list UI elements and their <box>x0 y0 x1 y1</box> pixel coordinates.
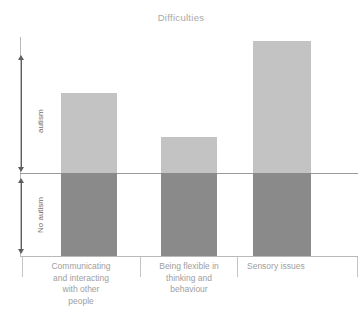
category-label-line: and interacting <box>28 273 134 285</box>
category-label-line: people <box>28 296 134 308</box>
band-label-autism: autism <box>36 109 45 133</box>
bar-sensory-issues <box>253 41 311 256</box>
bar-segment-autism <box>161 137 217 173</box>
no-autism-range-arrow <box>17 178 26 254</box>
category-label-sensory-issues: Sensory issues <box>243 261 353 273</box>
bar-segment-autism <box>253 41 311 173</box>
category-label-line: thinking and <box>144 273 234 285</box>
autism-range-arrow <box>17 55 26 172</box>
category-tick <box>237 257 238 277</box>
chart-container: Difficulties autism No autism Communicat… <box>0 0 362 315</box>
bar-segment-no-autism <box>61 173 117 256</box>
category-label-communicating: Communicatingand interactingwith otherpe… <box>28 261 134 307</box>
arrow-head-down-icon <box>18 249 24 254</box>
category-label-being-flexible: Being flexible inthinking andbehaviour <box>144 261 234 296</box>
category-tick <box>22 257 23 277</box>
bar-segment-no-autism <box>253 173 311 256</box>
bar-segment-no-autism <box>161 173 217 256</box>
x-axis-line <box>20 256 358 257</box>
category-tick <box>357 257 358 277</box>
arrow-shaft <box>21 182 22 250</box>
bar-being-flexible <box>161 137 217 256</box>
category-tick <box>140 257 141 277</box>
bar-communicating <box>61 93 117 256</box>
bar-segment-autism <box>61 93 117 173</box>
category-label-line: Being flexible in <box>144 261 234 273</box>
arrow-shaft <box>21 59 22 168</box>
category-label-line: with other <box>28 284 134 296</box>
category-label-line: Sensory issues <box>247 261 353 273</box>
chart-title: Difficulties <box>0 12 362 23</box>
arrow-head-down-icon <box>18 167 24 172</box>
band-label-no-autism: No autism <box>36 197 45 233</box>
category-label-line: behaviour <box>144 284 234 296</box>
category-label-line: Communicating <box>28 261 134 273</box>
